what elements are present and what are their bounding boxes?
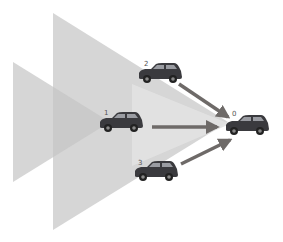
car-label-2: 2 bbox=[144, 61, 148, 68]
car-0-icon bbox=[226, 115, 269, 135]
car-label-0: 0 bbox=[232, 111, 236, 118]
car-label-1: 1 bbox=[104, 110, 108, 117]
vehicle-diagram bbox=[0, 0, 283, 242]
car-label-3: 3 bbox=[138, 160, 142, 167]
